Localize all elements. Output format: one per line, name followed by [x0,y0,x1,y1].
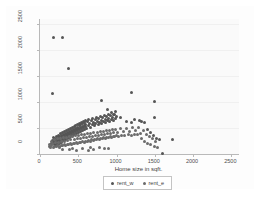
data-point [130,121,133,124]
data-point [154,140,157,143]
data-point [153,100,156,103]
data-point [137,126,140,129]
data-point [104,121,107,124]
data-point [125,127,128,130]
data-point [61,36,64,39]
legend[interactable]: rent_wrent_e [103,176,172,190]
y-axis-tick-label-text: 0 [16,140,24,168]
data-point [122,130,125,133]
data-point [100,99,103,102]
x-axis-title: Home size in sqft. [39,166,238,172]
data-point [112,119,115,122]
data-point [123,134,126,137]
data-point [93,124,96,127]
data-point [149,131,152,134]
data-point [119,116,122,119]
y-axis-tick-label-text: 2000 [16,36,24,64]
data-point [125,120,128,123]
data-point [139,132,142,135]
legend-entry[interactable]: rent_e [143,179,165,187]
y-axis-tick-label: 500 [6,124,34,132]
data-point [107,147,110,150]
data-point [161,152,164,155]
y-axis-tick-label-text: 1500 [16,62,24,90]
data-point [158,138,161,141]
y-axis-tick-label-text: 500 [16,114,24,142]
legend-label: rent_e [149,179,165,187]
data-point [67,67,70,70]
data-point [89,126,92,129]
scatter-plot-figure: 05001000150020002500 0500100015002000250… [0,0,267,205]
y-axis-tick-label-text: 1000 [16,88,24,116]
x-axis-tick-label: 500 [62,157,92,166]
plot-area [39,19,239,155]
x-axis-tick-label: 2000 [177,157,207,166]
data-point [100,122,103,125]
y-axis-tick-label: 2000 [6,46,34,54]
data-point [75,149,78,152]
data-point [142,129,145,132]
data-point [61,148,64,151]
y-axis-tick-label: 1500 [6,72,34,80]
legend-marker-icon [143,182,146,185]
data-point [130,91,133,94]
data-point [87,149,90,152]
data-point [106,108,109,111]
legend-entry[interactable]: rent_w [111,179,134,187]
data-point [98,146,101,149]
data-point [134,129,137,132]
data-point [92,148,95,151]
data-point [128,130,131,133]
data-point [156,146,159,149]
y-axis-tick-label-text: 2500 [16,10,24,38]
y-axis-tick-label: 2500 [6,20,34,28]
data-point [52,36,55,39]
data-point [133,118,136,121]
data-point [108,120,111,123]
data-point [115,115,118,118]
graph-region: 05001000150020002500 0500100015002000250… [6,6,254,189]
x-axis-tick-label: 0 [24,157,54,166]
data-point [85,127,88,130]
data-point [114,110,117,113]
data-point [51,92,54,95]
data-point [97,123,100,126]
x-axis-tick-label: 1000 [101,157,131,166]
data-point [68,148,71,151]
data-point [81,147,84,150]
y-axis-tick-label: 1000 [6,98,34,106]
data-point [143,121,146,124]
y-axis-tick-labels: 05001000150020002500 [6,19,39,154]
legend-marker-icon [111,182,114,185]
data-points-layer [40,19,239,154]
data-point [103,147,106,150]
legend-label: rent_w [117,179,134,187]
x-axis-tick-label: 1500 [139,157,169,166]
x-axis-tick-label: 2500 [215,157,245,166]
data-point [153,116,156,119]
data-point [71,147,74,150]
data-point [171,138,174,141]
data-point [116,131,119,134]
